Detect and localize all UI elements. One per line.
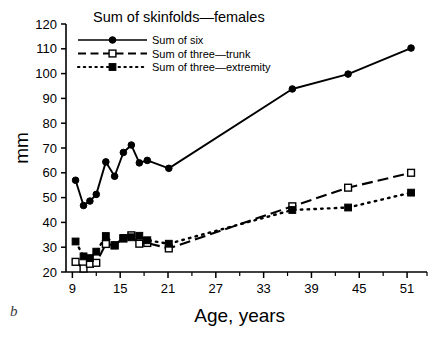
- data-point-filled-square: [144, 237, 151, 244]
- x-tick-label: 45: [352, 281, 366, 296]
- data-point-filled-square: [120, 235, 127, 242]
- data-point-filled-circle: [136, 160, 143, 167]
- data-point-open-square: [136, 240, 143, 247]
- y-tick-label: 30: [43, 240, 57, 255]
- y-tick-label: 70: [43, 141, 57, 156]
- chart-title: Sum of skinfolds—females: [93, 9, 265, 25]
- y-tick-label: 20: [43, 265, 57, 280]
- data-point-filled-square: [87, 255, 94, 262]
- data-point-filled-square: [128, 234, 135, 241]
- x-tick-label: 39: [304, 281, 318, 296]
- data-point-filled-square: [408, 189, 415, 196]
- data-point-filled-circle: [109, 37, 116, 44]
- data-point-filled-circle: [72, 177, 79, 184]
- data-point-filled-square: [289, 207, 296, 214]
- y-tick-label: 110: [36, 41, 57, 56]
- chart-canvas: 2030405060708090100110120915212733394551…: [0, 0, 441, 339]
- data-point-filled-square: [102, 233, 109, 240]
- legend: Sum of sixSum of three—trunkSum of three…: [78, 34, 271, 73]
- y-tick-label: 60: [43, 165, 57, 180]
- data-point-filled-circle: [128, 142, 135, 149]
- legend-item-3[interactable]: Sum of three—extremity: [78, 61, 271, 73]
- y-axis-title: mm: [11, 132, 32, 164]
- data-point-filled-square: [109, 64, 116, 71]
- series-2: [72, 169, 414, 272]
- data-point-filled-square: [111, 242, 118, 249]
- data-point-open-square: [345, 184, 352, 191]
- series-3: [72, 189, 414, 261]
- y-tick-label: 100: [35, 66, 57, 81]
- x-tick-label: 27: [209, 281, 223, 296]
- legend-label: Sum of six: [152, 34, 204, 46]
- legend-label: Sum of three—trunk: [152, 48, 251, 60]
- data-point-open-square: [109, 50, 116, 57]
- panel-letter: b: [10, 303, 18, 320]
- data-point-filled-circle: [408, 45, 415, 52]
- data-point-filled-square: [345, 204, 352, 211]
- series-line: [76, 193, 412, 258]
- x-tick-label: 9: [69, 281, 76, 296]
- data-point-filled-circle: [80, 202, 87, 209]
- data-point-filled-circle: [93, 191, 100, 198]
- series-line: [76, 173, 412, 269]
- x-axis-ticks: 915212733394551: [69, 272, 427, 296]
- legend-label: Sum of three—extremity: [152, 61, 271, 73]
- data-point-filled-square: [80, 253, 87, 260]
- data-point-open-square: [102, 241, 109, 248]
- data-point-filled-square: [72, 238, 79, 245]
- data-point-filled-square: [93, 248, 100, 255]
- data-point-filled-circle: [111, 173, 118, 180]
- data-point-filled-circle: [120, 149, 127, 156]
- data-point-open-square: [93, 259, 100, 266]
- data-point-open-square: [72, 258, 79, 265]
- x-tick-label: 21: [161, 281, 175, 296]
- y-tick-label: 50: [43, 190, 57, 205]
- data-point-filled-circle: [87, 198, 94, 205]
- data-point-filled-circle: [345, 71, 352, 78]
- data-point-filled-circle: [144, 157, 151, 164]
- x-tick-label: 15: [113, 281, 127, 296]
- x-tick-label: 33: [256, 281, 270, 296]
- data-point-filled-square: [165, 240, 172, 247]
- y-axis-ticks: 2030405060708090100110120: [35, 17, 66, 280]
- data-point-filled-square: [136, 232, 143, 239]
- x-axis-title: Age, years: [194, 305, 285, 326]
- y-tick-label: 120: [35, 17, 57, 32]
- x-tick-label: 51: [400, 281, 414, 296]
- legend-item-1[interactable]: Sum of six: [78, 34, 204, 46]
- y-tick-label: 80: [43, 116, 57, 131]
- y-tick-label: 90: [43, 91, 57, 106]
- data-point-open-square: [408, 169, 415, 176]
- legend-item-2[interactable]: Sum of three—trunk: [78, 48, 251, 60]
- y-tick-label: 40: [43, 215, 57, 230]
- figure-panel: 2030405060708090100110120915212733394551…: [0, 0, 441, 339]
- data-point-filled-circle: [289, 86, 296, 93]
- data-point-filled-circle: [103, 159, 110, 166]
- data-point-filled-circle: [166, 165, 173, 172]
